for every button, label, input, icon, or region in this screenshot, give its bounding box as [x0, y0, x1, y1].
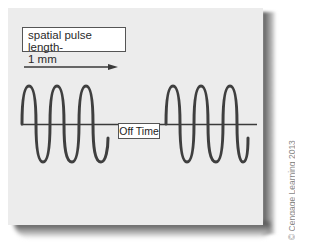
- label-line-1: spatial pulse length-: [28, 29, 125, 53]
- off-time-label: Off Time: [118, 123, 160, 139]
- spatial-pulse-length-label: spatial pulse length- 1 mm: [22, 27, 126, 52]
- label-line-2: 1 mm: [28, 53, 125, 65]
- copyright-credit: © Cengage Learning 2013: [287, 140, 295, 240]
